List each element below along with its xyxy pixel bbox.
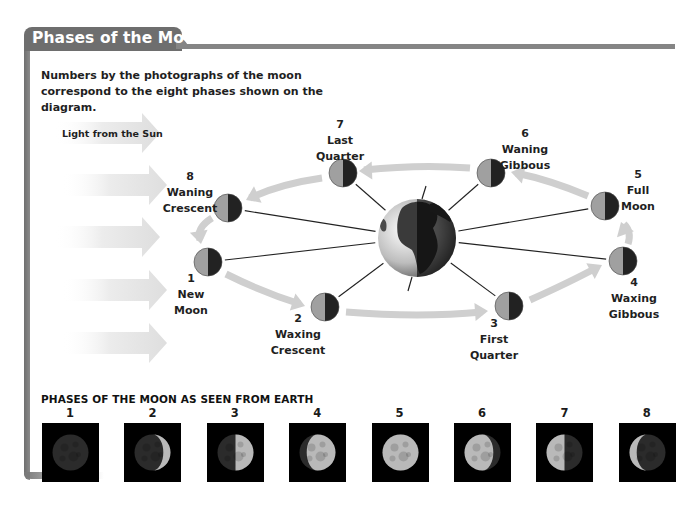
crater: [555, 444, 563, 452]
phase-label-3: 3 First Quarter: [470, 316, 518, 364]
moon-photo-2: [124, 423, 181, 482]
connector-line-1: [225, 243, 375, 260]
sun-light-arrow: [62, 270, 167, 310]
photo-number: 7: [560, 406, 568, 420]
phase-name: Crescent: [271, 343, 326, 359]
connector-line-6: [449, 184, 479, 210]
crater: [390, 444, 398, 452]
connector-line-5: [458, 209, 588, 231]
phase-name: First: [470, 332, 518, 348]
photo-number: 2: [148, 406, 156, 420]
connector-line-4: [459, 243, 606, 259]
earth-night-side: [417, 195, 462, 285]
phase-label-4: 4 Waxing Gibbous: [609, 275, 659, 323]
crater: [307, 456, 313, 462]
crater: [155, 442, 161, 448]
crater: [473, 444, 481, 452]
phase-name: Moon: [174, 303, 208, 319]
phase-name: New: [174, 287, 208, 303]
earth-globe: [378, 186, 462, 291]
crater: [241, 452, 246, 457]
phase-name: Crescent: [163, 201, 218, 217]
crater: [636, 456, 642, 462]
sun-light-arrow: [62, 165, 167, 205]
photo-number: 5: [396, 406, 404, 420]
crater: [73, 442, 79, 448]
diagram-moon-5: [591, 192, 619, 220]
diagram-moon-4: [609, 247, 637, 275]
phase-number: 8: [163, 169, 218, 185]
photo-number: 8: [643, 406, 651, 420]
orbit-arrow-3: [530, 268, 596, 300]
crater: [142, 456, 148, 462]
moon-photo-3: [207, 423, 264, 482]
crater: [637, 444, 645, 452]
phase-label-8: 8 Waning Crescent: [163, 169, 218, 217]
phase-label-2: 2 Waxing Crescent: [271, 311, 326, 359]
phase-number: 2: [271, 311, 326, 327]
photo-number: 4: [313, 406, 321, 420]
crater: [158, 452, 163, 457]
photo-number: 1: [66, 406, 74, 420]
orbit-arrow-5: [516, 173, 588, 196]
crater: [225, 444, 233, 452]
crater: [323, 452, 328, 457]
moon-lit-area: [547, 435, 565, 471]
orbit-arrow-1: [226, 274, 300, 304]
moon-photo-8: [619, 423, 676, 482]
phase-name: Last: [316, 133, 364, 149]
photo-number: 6: [478, 406, 486, 420]
crater: [567, 442, 573, 448]
moon-phase-diagram: Light from the Sun 1 New Moon 2 Waxing C…: [0, 0, 700, 380]
diagram-canvas: [0, 0, 700, 380]
sun-light-label: Light from the Sun: [62, 128, 163, 139]
diagram-moon-8: [214, 194, 242, 222]
orbit-arrowhead: [190, 230, 208, 244]
phase-name: Gibbous: [500, 158, 550, 174]
connector-line-2: [339, 263, 384, 297]
phase-name: Waxing: [271, 327, 326, 343]
connector-line-7: [356, 184, 386, 210]
phase-name: Waning: [500, 142, 550, 158]
crater: [488, 452, 493, 457]
moon-photo-7: [536, 423, 593, 482]
crater: [570, 452, 575, 457]
phase-name: Quarter: [470, 348, 518, 364]
phase-label-6: 6 Waning Gibbous: [500, 126, 550, 174]
crater: [472, 456, 478, 462]
crater: [320, 442, 326, 448]
crater: [649, 442, 655, 448]
orbit-arrow-2: [346, 312, 482, 315]
phase-name: Gibbous: [609, 307, 659, 323]
orbit-arrow-7: [250, 178, 322, 198]
crater: [406, 452, 411, 457]
moon-photo-5: [372, 423, 429, 482]
crater: [554, 456, 560, 462]
photo-number: 3: [231, 406, 239, 420]
crater: [308, 444, 316, 452]
crater: [224, 456, 230, 462]
sun-light-arrow: [62, 323, 167, 363]
phase-name: Moon: [621, 199, 655, 215]
crater: [389, 456, 395, 462]
phase-number: 4: [609, 275, 659, 291]
phase-name: Waning: [163, 185, 218, 201]
moon-lit-area: [465, 435, 494, 471]
crater: [485, 442, 491, 448]
crater: [143, 444, 151, 452]
crater: [76, 452, 81, 457]
phase-name: Quarter: [316, 149, 364, 165]
phase-number: 6: [500, 126, 550, 142]
crater: [402, 442, 408, 448]
phase-label-7: 7 Last Quarter: [316, 117, 364, 165]
phase-name: Waxing: [609, 291, 659, 307]
photos-heading: PHASES OF THE MOON AS SEEN FROM EARTH: [41, 393, 313, 405]
connector-line-8: [245, 211, 376, 232]
phase-label-1: 1 New Moon: [174, 271, 208, 319]
orbit-arrow-6: [364, 166, 470, 170]
crater: [61, 444, 69, 452]
phase-number: 5: [621, 167, 655, 183]
phase-number: 7: [316, 117, 364, 133]
phase-number: 1: [174, 271, 208, 287]
crater: [653, 452, 658, 457]
